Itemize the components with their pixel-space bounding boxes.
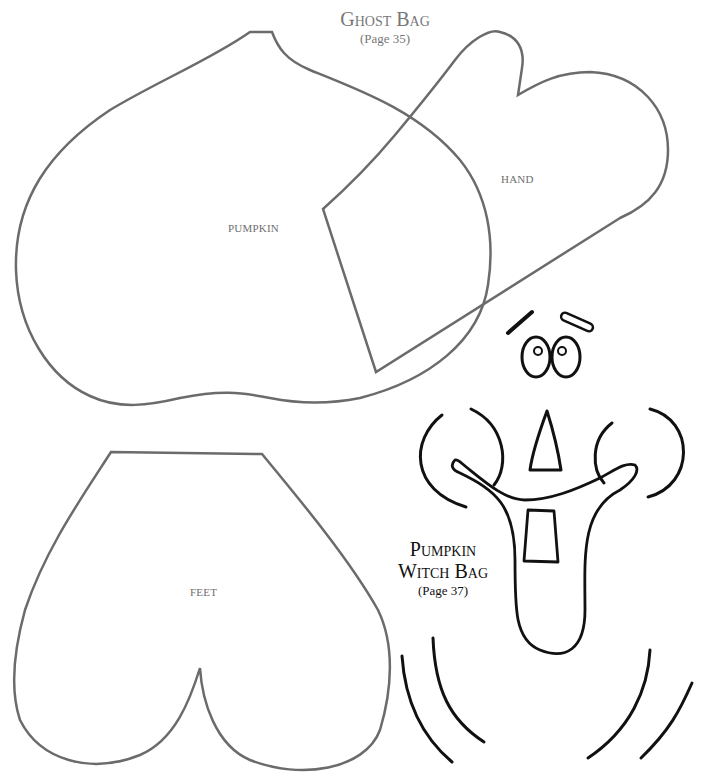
right-eyebrow [560, 311, 594, 332]
hand-outline [323, 31, 668, 372]
right-eye [552, 337, 580, 377]
pumpkin-outline [16, 32, 491, 405]
feet-label: FEET [190, 586, 217, 598]
chin-line-1 [402, 656, 452, 762]
right-pupil [558, 347, 566, 355]
ghost-bag-title: Ghost Bag (Page 35) [330, 8, 440, 48]
hand-label: HAND [501, 173, 534, 185]
pattern-drawing [0, 0, 706, 777]
pumpkin-label: PUMPKIN [228, 222, 279, 234]
nose [530, 411, 561, 470]
right-cheek-outer [648, 409, 684, 497]
witch-face [402, 311, 692, 762]
chin-line-4 [641, 683, 692, 758]
pattern-page: Ghost Bag (Page 35) Pumpkin Witch Bag (P… [0, 0, 706, 777]
ghost-bag-page-ref: (Page 35) [330, 30, 440, 48]
tooth [524, 510, 558, 562]
ghost-bag-heading: Ghost Bag [330, 8, 440, 30]
witch-bag-heading-line2: Witch Bag [384, 560, 502, 582]
left-pupil [534, 347, 542, 355]
witch-bag-page-ref: (Page 37) [384, 582, 502, 600]
witch-bag-heading-line1: Pumpkin [384, 538, 502, 560]
left-eyebrow [508, 312, 532, 333]
left-eye [522, 337, 550, 377]
pumpkin-witch-bag-title: Pumpkin Witch Bag (Page 37) [384, 538, 502, 600]
chin-line-3 [588, 650, 650, 758]
chin-line-2 [433, 638, 484, 742]
feet-outline [14, 452, 390, 770]
